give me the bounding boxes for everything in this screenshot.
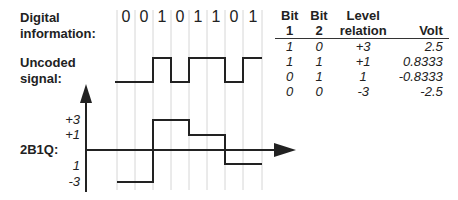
header-level: Levelrelation [334,8,393,39]
level-table: Bit1 Bit2 Levelrelation Volt 10+32.5 11+… [275,8,449,99]
uncoded-signal-line [115,58,262,82]
bit: 0 [135,8,153,26]
table-row: 011-0.8333 [275,69,449,84]
table-row: 00-3-2.5 [275,84,449,99]
bit: 1 [244,8,262,26]
bit: 1 [153,8,171,26]
tick-minus3: -3 [60,174,80,189]
tick-plus3: +3 [60,112,80,127]
tick-plus1: +1 [60,127,80,142]
bit: 0 [225,8,243,26]
x-axis-arrow-icon [274,143,296,157]
header-bit1: Bit1 [275,8,304,39]
tick-minus1: 1 [60,158,80,173]
table-row: 10+32.5 [275,39,449,55]
bit: 0 [171,8,189,26]
header-bit2: Bit2 [304,8,333,39]
y-axis-arrow-icon [80,84,92,103]
table-row: 11+10.8333 [275,54,449,69]
bit: 0 [117,8,135,26]
header-volt: Volt [393,8,449,39]
bit: 1 [207,8,225,26]
bit: 1 [189,8,207,26]
